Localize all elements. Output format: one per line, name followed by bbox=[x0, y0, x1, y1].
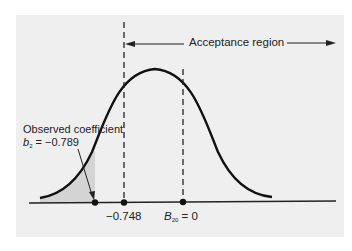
observed-coefficient-label: Observed coefficient bbox=[23, 123, 123, 135]
critical-point bbox=[121, 199, 127, 205]
acceptance-region-label: Acceptance region bbox=[186, 36, 287, 48]
observed-point bbox=[92, 199, 98, 205]
arrow-left-icon bbox=[125, 41, 135, 47]
critical-value-label: −0.748 bbox=[106, 210, 142, 222]
null-point bbox=[180, 199, 186, 205]
null-symbol: B bbox=[164, 210, 172, 222]
null-value-text: = 0 bbox=[178, 210, 198, 222]
observed-coefficient-value: b2 = −0.789 bbox=[23, 136, 79, 152]
null-hypothesis-label: B20 = 0 bbox=[164, 210, 198, 223]
arrow-right-icon bbox=[326, 40, 336, 46]
observed-value-text: = −0.789 bbox=[32, 136, 79, 148]
